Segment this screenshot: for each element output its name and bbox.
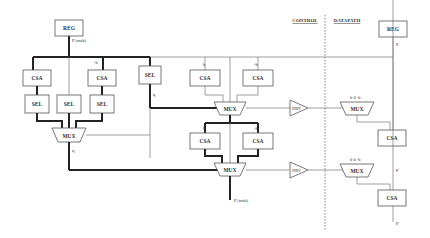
svg-text:REG: REG [387,26,400,32]
svg-text:MUX: MUX [350,106,363,112]
svg-text:b: b [32,60,35,65]
svg-text:DRV: DRV [292,106,302,111]
p-j-msb-label: P (msb) [72,38,86,43]
svg-text:-b: -b [94,60,98,65]
svg-text:MUX: MUX [62,133,75,139]
svg-text:CSA: CSA [386,195,397,201]
svg-text:q: q [72,148,75,153]
svg-text:MUX: MUX [350,168,363,174]
svg-text:b: b [203,62,206,67]
svg-text:b 0 -b: b 0 -b [350,95,361,100]
control-header: CONTROL [292,18,318,23]
svg-text:P: P [396,168,399,173]
svg-text:CSA: CSA [31,75,42,81]
svg-text:CSA: CSA [96,75,107,81]
svg-text:b 0 -b: b 0 -b [350,157,361,162]
svg-text:SEL: SEL [97,101,108,107]
svg-text:q: q [153,92,156,97]
svg-text:CSA: CSA [199,75,210,81]
svg-text:CSA: CSA [199,138,210,144]
svg-text:CSA: CSA [386,135,397,141]
svg-text:MUX: MUX [223,106,236,112]
svg-text:MUX: MUX [223,167,236,173]
svg-text:CSA: CSA [252,138,263,144]
svg-text:P: P [396,42,399,47]
svg-text:P: P [396,221,399,226]
datapath-header: DATAPATH [334,18,361,23]
svg-text:DRV: DRV [292,168,302,173]
svg-text:SEL: SEL [145,72,156,78]
svg-text:CSA: CSA [252,75,263,81]
svg-text:SEL: SEL [64,101,75,107]
datapath-diagram: CONTROL DATAPATH REG P (msb) b CSA -b CS… [0,0,430,238]
svg-text:SEL: SEL [32,101,43,107]
reg-left-label: REG [63,25,76,31]
svg-text:P (msb): P (msb) [234,198,248,203]
